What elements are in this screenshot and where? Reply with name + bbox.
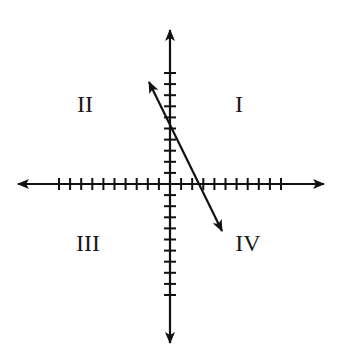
quadrant-label-q4: IV bbox=[235, 230, 261, 256]
plotted-line bbox=[149, 82, 222, 231]
quadrant-label-q1: I bbox=[235, 91, 243, 117]
axes bbox=[18, 30, 324, 343]
coordinate-plane-diagram: IIIIIIIV bbox=[0, 0, 344, 363]
quadrant-label-q2: II bbox=[77, 91, 93, 117]
line-with-arrows bbox=[149, 82, 222, 231]
quadrant-label-q3: III bbox=[76, 230, 100, 256]
